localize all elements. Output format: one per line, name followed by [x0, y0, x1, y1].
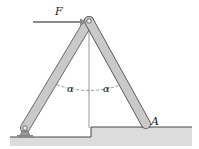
- force-label: F: [55, 6, 63, 17]
- right-bar: [89, 21, 146, 124]
- angle-label-left: α: [67, 84, 74, 94]
- force-arrow: [33, 19, 87, 26]
- ground: [10, 127, 192, 146]
- left-bar: [25, 21, 89, 128]
- two-bar-frame-diagram: [0, 0, 199, 149]
- top-pin-icon: [87, 19, 91, 23]
- angle-label-right: α: [103, 84, 110, 94]
- point-a-label: A: [151, 116, 159, 127]
